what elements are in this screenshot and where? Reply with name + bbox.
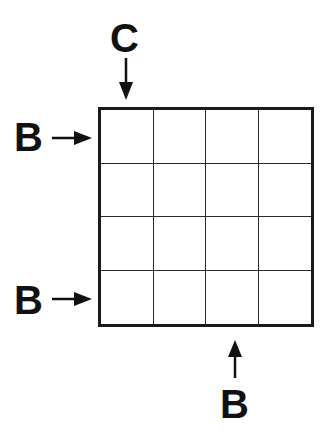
clue-left-row4: B: [14, 280, 43, 320]
grid-cell[interactable]: [259, 164, 312, 218]
arrow-right-icon: [52, 292, 92, 306]
grid-cell[interactable]: [206, 217, 259, 271]
grid-cell[interactable]: [154, 164, 207, 218]
grid-cell[interactable]: [154, 271, 207, 325]
arrow-right-icon: [52, 131, 92, 145]
grid-cell[interactable]: [206, 164, 259, 218]
puzzle-grid: [98, 107, 314, 327]
grid-cell[interactable]: [101, 110, 154, 164]
grid-cell[interactable]: [101, 271, 154, 325]
grid-cell[interactable]: [101, 164, 154, 218]
grid-cell[interactable]: [101, 217, 154, 271]
clue-top-col1: C: [110, 18, 139, 58]
grid-cell[interactable]: [259, 271, 312, 325]
grid-cell[interactable]: [259, 217, 312, 271]
arrow-down-icon: [119, 58, 133, 100]
grid-cell[interactable]: [206, 110, 259, 164]
clue-bottom-col3: B: [220, 384, 249, 424]
grid-cell[interactable]: [154, 217, 207, 271]
grid-cell[interactable]: [154, 110, 207, 164]
grid-cell[interactable]: [206, 271, 259, 325]
clue-left-row1: B: [14, 117, 43, 157]
grid-cell[interactable]: [259, 110, 312, 164]
arrow-up-icon: [228, 340, 242, 378]
